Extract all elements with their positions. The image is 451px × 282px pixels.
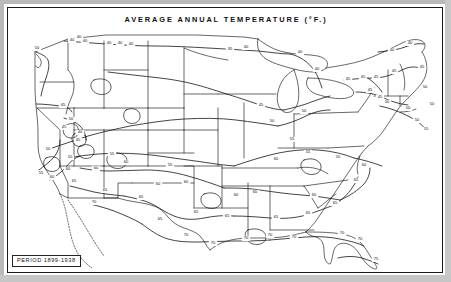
isotherm-label: 45	[368, 87, 373, 92]
isotherm-label: 45	[61, 102, 66, 107]
isotherm-label: 40	[408, 40, 413, 45]
isotherm-label: 70	[268, 232, 273, 237]
isotherm-label: 55	[336, 154, 341, 159]
scan-edge-top	[0, 0, 451, 4]
isotherm-label: 65	[274, 214, 279, 219]
isotherm-label: 40	[77, 34, 82, 39]
isotherm-label: 45	[420, 64, 425, 69]
state-line-mi-wi	[184, 48, 228, 60]
isotherm-label: 65	[194, 209, 199, 214]
isotherm-cell-appalachia	[301, 159, 321, 175]
isotherm-label: 40	[298, 49, 303, 54]
isotherm-label: 60	[274, 156, 279, 161]
isotherm-label: 75	[374, 256, 379, 261]
isotherm-label: 45	[346, 76, 351, 81]
isotherm-label: 65	[158, 216, 163, 221]
isotherm-label: 50	[423, 84, 428, 89]
isotherm-label: 65	[72, 178, 77, 183]
isotherm-label: 50	[302, 108, 307, 113]
isotherm-label: 45	[361, 74, 366, 79]
scan-edge-right	[445, 0, 451, 282]
isotherm-label: 60	[253, 189, 258, 194]
isotherm-label: 65	[354, 177, 359, 182]
isotherm-cell-nmountain	[91, 79, 111, 95]
us-isotherm-map: 5040404040404035404040404045454545455050…	[8, 8, 444, 274]
isotherm-label: 45	[259, 102, 264, 107]
isotherm-label: 40	[390, 47, 395, 52]
isotherm-label: 35	[228, 46, 233, 51]
isotherm-label: 55	[306, 149, 311, 154]
scan-edge-bottom	[0, 275, 451, 282]
isotherm-45-mid	[284, 96, 330, 110]
isotherm-label: 70	[184, 232, 189, 237]
isotherm-label: 60	[94, 165, 99, 170]
period-caption: PERIOD 1899-1938	[12, 255, 81, 267]
map-frame: AVERAGE ANNUAL TEMPERATURE (°F.)	[7, 7, 443, 273]
isotherm-label: 70	[92, 199, 97, 204]
isotherm-label: 65	[103, 187, 108, 192]
isotherm-70-sw	[90, 204, 142, 224]
isotherm-label: 60	[184, 179, 189, 184]
isotherm-label: 40	[315, 66, 320, 71]
map-figure: AVERAGE ANNUAL TEMPERATURE (°F.)	[0, 0, 451, 282]
isotherm-label: 70	[292, 234, 297, 239]
isotherm-70-tx-gulf	[142, 224, 270, 242]
coast-puget-sound	[36, 54, 41, 68]
isotherm-label: 50	[46, 146, 51, 151]
isotherm-50-pacnw	[36, 52, 49, 96]
isotherm-40-north	[64, 41, 290, 54]
isotherm-label: 40	[129, 41, 134, 46]
isotherm-label: 65	[306, 210, 311, 215]
great-lakes-michigan-huron	[277, 70, 299, 113]
border-canada-west	[35, 35, 258, 52]
isotherm-label: 45	[76, 137, 81, 142]
isotherm-label: 65	[225, 213, 230, 218]
isotherm-label: 40	[78, 129, 83, 134]
isotherm-label: 45	[62, 124, 67, 129]
state-line-nh-me	[400, 64, 405, 90]
isotherm-label: 40	[118, 40, 123, 45]
isotherm-label: 40	[70, 37, 75, 42]
isotherm-label: 50	[270, 118, 275, 123]
isotherm-label: 70	[358, 236, 363, 241]
isotherm-label: 60	[50, 174, 55, 179]
isotherm-label: 40	[107, 40, 112, 45]
isotherm-label: 70	[244, 235, 249, 240]
isotherm-65-sw	[70, 186, 124, 196]
scan-edge-left	[0, 0, 4, 282]
isotherm-label: 50	[385, 99, 390, 104]
isotherm-label: 60	[312, 192, 317, 197]
isotherm-cell-blackhills	[124, 109, 141, 124]
isotherm-label: 55	[424, 126, 429, 131]
baja-inner	[68, 200, 104, 256]
isotherm-label: 50	[406, 105, 411, 110]
isotherm-40-ne-inland	[344, 67, 420, 80]
isotherm-label: 55	[68, 154, 73, 159]
isotherm-label: 40	[83, 38, 88, 43]
isotherm-label: 55	[39, 170, 44, 175]
isotherm-60-sw	[80, 168, 224, 188]
isotherm-55-west	[39, 140, 60, 170]
isotherm-label: 60	[66, 166, 71, 171]
isotherm-label: 45	[378, 94, 383, 99]
coast-florida	[306, 232, 377, 269]
state-line-pa-md	[328, 146, 364, 148]
isotherm-40-northeast	[378, 44, 424, 52]
isotherm-label: 55	[110, 151, 115, 156]
isotherm-label: 50	[69, 116, 74, 121]
isotherm-label: 50	[35, 45, 40, 50]
isotherm-label: 60	[156, 181, 161, 186]
isotherm-label: 70	[340, 230, 345, 235]
isotherm-label: 55	[290, 136, 295, 141]
isotherm-label: 70	[211, 240, 216, 245]
isotherm-label: 65	[333, 200, 338, 205]
isotherm-label: 55	[168, 162, 173, 167]
isotherm-label: 50	[430, 101, 435, 106]
isotherm-cell-ozark	[201, 193, 221, 209]
isotherm-label: 60	[124, 159, 129, 164]
isotherm-60-south	[224, 188, 340, 200]
isotherm-label: 60	[234, 192, 239, 197]
isotherm-label: 65	[139, 194, 144, 199]
isotherm-label: 60	[362, 162, 367, 167]
isotherm-label: 45	[374, 74, 379, 79]
